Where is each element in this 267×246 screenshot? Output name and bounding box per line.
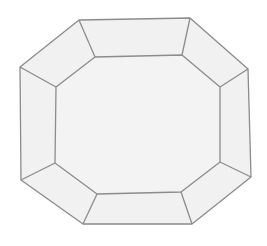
gem-diagram bbox=[0, 0, 267, 246]
octagon-gem-icon bbox=[0, 0, 267, 246]
inner-table-octagon bbox=[55, 55, 220, 194]
